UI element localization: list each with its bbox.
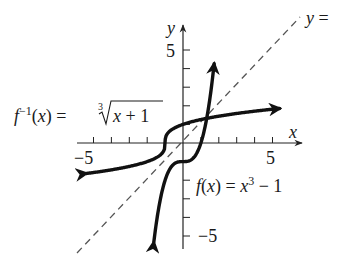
f-inverse-label-close: ) = [46,106,67,127]
f-inverse-label: f−1(x) = 3 x + 1 [14,101,163,127]
x-axis-label: x [288,122,297,142]
x-tick-label-neg5: −5 [74,148,93,168]
identity-label-y: y [304,8,314,28]
identity-label-eq: = [314,8,329,28]
f-inverse-label-x: x [37,106,46,126]
cube-root-index: 3 [98,101,103,112]
y-tick-label-neg5: −5 [198,226,217,246]
y-axis-label: y [165,18,175,38]
f-label-x: x [206,176,215,196]
inverse-function-graph: y x 5 −5 −5 5 y = f−1(x) = 3 x + 1 f(x) … [0,0,347,266]
svg-text:f−1(x) =: f−1(x) = [14,104,66,127]
radicand-rest: + 1 [121,106,149,126]
radicand-x: x [112,106,121,126]
svg-text:f(x) = x3 − 1: f(x) = x3 − 1 [196,174,282,197]
f-inverse-label-sup: −1 [19,104,32,118]
f-label: f(x) = x3 − 1 [196,174,282,197]
f-label-rhs: − 1 [254,176,282,196]
y-tick-label-5: 5 [166,41,175,61]
f-label-eq: ) = [215,176,240,197]
x-tick-label-5: 5 [266,148,275,168]
x-axis [77,137,302,143]
svg-text:x + 1: x + 1 [112,106,149,126]
f-label-x2: x [239,176,248,196]
identity-label: y = [304,8,329,28]
